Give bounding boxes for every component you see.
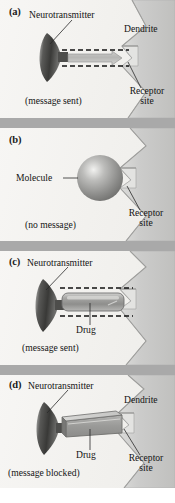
status-d: (message blocked) [8,467,80,478]
drug-capsule [62,293,124,311]
label-dendrite-a: Dendrite [124,24,158,35]
separator-cd [0,365,175,375]
label-receptor-site-a-line2: site [122,96,172,106]
label-neurotransmitter-c: Neurotransmitter [27,258,93,269]
separator-bc [0,241,175,251]
label-receptor-site-b-line2: site [120,218,172,228]
status-b: (no message) [25,219,76,230]
drug-block [62,411,122,437]
neurotransmitter-leader [46,267,68,290]
neurotransmitter-figure: (a) Neurotransmitter Dendrite Receptor s… [0,0,175,503]
label-drug-c: Drug [76,325,96,336]
receptor-notch [122,46,138,66]
label-receptor-site-d-line2: site [120,463,172,473]
neurotransmitter-cone [36,402,58,455]
molecule-sphere [77,155,123,201]
neurotransmitter-stem [58,52,68,62]
panel-b-letter: (b) [9,134,21,145]
panel-c-letter: (c) [9,256,20,267]
label-neurotransmitter-a: Neurotransmitter [29,10,95,21]
label-neurotransmitter-d: Neurotransmitter [28,381,94,392]
signal-arrow [68,51,122,65]
label-dendrite-d: Dendrite [124,395,158,406]
neurotransmitter-cone [39,33,60,82]
panel-c: (c) Neurotransmitter Drug (message sent) [0,251,175,365]
neurotransmitter-leader [47,390,68,413]
panel-a-letter: (a) [9,6,21,17]
status-c: (message sent) [22,342,79,353]
panel-d-letter: (d) [9,379,21,390]
neurotransmitter-cone [35,279,57,332]
label-drug-d: Drug [76,450,96,461]
panel-d: (d) Neurotransmitter Dendrite Drug Recep… [0,375,175,488]
panel-b: (b) Molecule Receptor site (no message) [0,128,175,241]
label-molecule-b: Molecule [16,173,52,184]
neurotransmitter-leader [50,20,72,44]
separator-ab [0,118,175,128]
status-a: (message sent) [25,95,82,106]
panel-a: (a) Neurotransmitter Dendrite Receptor s… [0,0,175,118]
